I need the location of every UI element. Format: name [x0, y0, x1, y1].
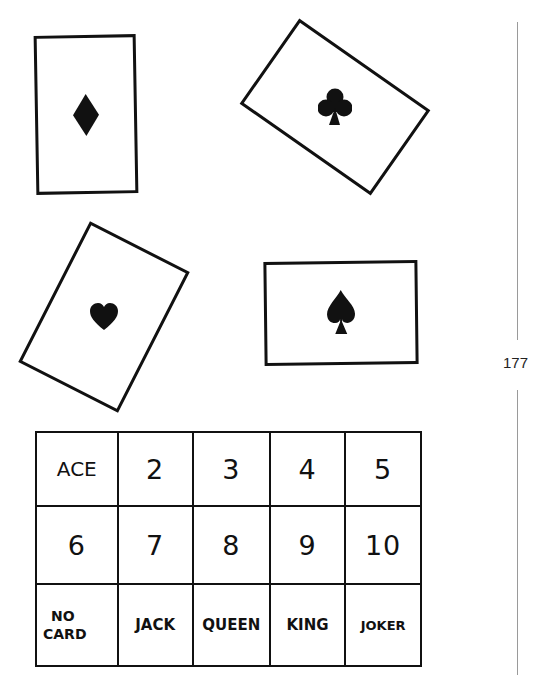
- grid-cell-7[interactable]: 7: [118, 506, 193, 584]
- no-card-line-1: NO: [43, 607, 117, 625]
- grid-cell-4[interactable]: 4: [270, 432, 345, 506]
- card-heart: [18, 221, 190, 413]
- card-diamond: [34, 34, 139, 195]
- grid-cell-8[interactable]: 8: [193, 506, 270, 584]
- diamond-icon: [73, 93, 100, 135]
- grid-cell-2[interactable]: 2: [118, 432, 193, 506]
- grid-row: 6 7 8 9 10: [36, 506, 421, 584]
- card-club: [240, 19, 431, 196]
- grid-cell-ace[interactable]: ACE: [36, 432, 118, 506]
- grid-cell-jack[interactable]: JACK: [118, 584, 193, 666]
- margin-rule-top: [517, 22, 518, 340]
- grid-cell-joker[interactable]: JOKER: [345, 584, 421, 666]
- grid-row: NO CARD JACK QUEEN KING JOKER: [36, 584, 421, 666]
- card-spade: [263, 260, 418, 366]
- grid-cell-5[interactable]: 5: [345, 432, 421, 506]
- margin-rule-bottom: [517, 390, 518, 675]
- worksheet-page: 177 ACE 2 3 4 5 6 7 8 9 10 NO CARD JACK …: [0, 0, 546, 681]
- grid-cell-6[interactable]: 6: [36, 506, 118, 584]
- grid-cell-no-card[interactable]: NO CARD: [36, 584, 118, 666]
- grid-cell-king[interactable]: KING: [270, 584, 345, 666]
- grid-cell-9[interactable]: 9: [270, 506, 345, 584]
- card-value-grid: ACE 2 3 4 5 6 7 8 9 10 NO CARD JACK QUEE…: [35, 431, 422, 667]
- grid-cell-queen[interactable]: QUEEN: [193, 584, 270, 666]
- grid-row: ACE 2 3 4 5: [36, 432, 421, 506]
- grid-cell-3[interactable]: 3: [193, 432, 270, 506]
- no-card-line-2: CARD: [43, 625, 117, 643]
- heart-icon: [90, 303, 118, 331]
- grid-cell-10[interactable]: 10: [345, 506, 421, 584]
- club-icon: [318, 88, 352, 126]
- spade-icon: [327, 290, 356, 336]
- page-number: 177: [503, 354, 528, 371]
